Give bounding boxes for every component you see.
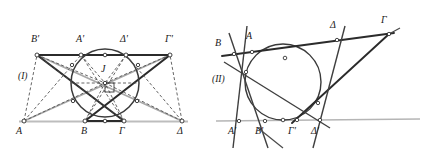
vertex-marker-Delta [335,38,338,41]
vertex-marker-Bprime [263,119,266,122]
label-B-fig2: B [215,38,221,48]
label-A-fig1: A [16,126,22,136]
tangency-marker-upper-left [70,63,73,66]
vertex-marker-B [83,119,87,123]
vertex-marker-Bprime [35,53,39,57]
tangent-Gamma-to-Gammaprime [292,34,389,123]
tangency-marker-left [244,70,247,73]
label-Deltaprime-fig2: Δ' [311,126,319,136]
vertex-marker-A [250,50,253,53]
dashed-A-Bprime [24,55,37,121]
vertex-marker-Aprime [79,53,83,57]
label-center-J: J [101,64,105,74]
vertex-marker-Delta [180,119,184,123]
label-B-fig1: B [81,126,87,136]
tangency-marker-top [283,56,287,60]
vertex-marker-Deltaprime [124,53,128,57]
tangency-marker-bottom [281,118,285,122]
label-Bprime-fig2: B' [255,126,263,136]
center-point-J [103,81,106,84]
label-Delta-fig2: Δ [330,20,336,30]
label-Aprime-fig2: A' [228,126,236,136]
vertex-marker-Gamma [122,119,126,123]
figure-1-number-label: (I) [18,72,28,82]
label-Gammaprime-fig1: Γ' [165,34,173,44]
label-Gamma-fig2: Γ [381,15,387,25]
dashed-Delta-Deltaprime [126,55,182,121]
vertex-marker-Gammaprime [295,118,298,121]
vertex-marker-Gamma [387,32,390,35]
figure-canvas: (I) B' A' Δ' Γ' A B Γ Δ J (II) B A Δ Γ A… [0,0,423,152]
label-Delta-fig1: Δ [177,126,183,136]
vertex-marker-B [232,52,235,55]
dashed-Deltaprime-B [85,55,126,121]
dashed-Delta-Gammaprime [170,55,182,121]
tangency-marker-lower-right [316,101,319,104]
vertex-marker-Aprime [237,119,240,122]
label-Bprime-fig1: B' [31,34,39,44]
vertex-marker-Gammaprime [168,53,172,57]
tangency-marker-lower-right [135,99,138,102]
vertex-marker-A [22,119,26,123]
label-Gamma-fig1: Γ [119,126,125,136]
label-Aprime-fig1: A' [76,34,84,44]
label-A-fig2: A [246,31,252,41]
label-Deltaprime-fig1: Δ' [120,34,128,44]
tangency-marker-lower-left [71,99,74,102]
vertex-marker-Deltaprime [318,118,321,121]
tangency-marker-upper-right [136,63,139,66]
tangency-marker-top [103,53,107,57]
tangency-marker-bottom [103,119,107,123]
label-Gammaprime-fig2: Γ' [288,126,296,136]
cevian-upperleft-to-Deltaprime [224,62,330,128]
figure-2-number-label: (II) [212,75,225,85]
figure-1-group [19,49,188,123]
